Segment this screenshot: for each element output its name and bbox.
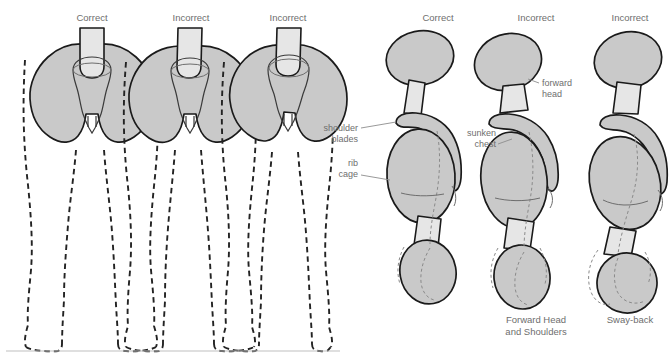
sacrum-column (177, 28, 202, 78)
leader-shoulder-blades (361, 122, 396, 128)
caption-sway-back: Sway-back (607, 314, 654, 325)
neck-column (500, 84, 528, 113)
caption-front-incorrect-2: Incorrect (270, 12, 307, 23)
neck-column (613, 82, 641, 114)
annotation-sunken-chest-line1: sunken (467, 128, 496, 138)
sacrum-column (276, 28, 301, 76)
leader-rib-cage (361, 175, 390, 180)
annotation-shoulder-blades-line1: shoulder (323, 123, 358, 133)
left-panel: Correct Incorrect Incorrect (6, 12, 347, 351)
pubic-symphysis (88, 116, 96, 127)
sacrum-column (80, 28, 104, 78)
caption-front-correct: Correct (76, 12, 108, 23)
side-figure-correct: shoulder blades rib cage (323, 25, 461, 309)
annotation-sunken-chest-line2: chest (474, 139, 496, 149)
leg-outline-inner-right (298, 152, 312, 344)
annotation-rib-cage-line1: rib (348, 158, 358, 168)
side-figure-forward-head: forward head sunken chest Forward Head a… (467, 25, 572, 337)
posture-diagram: Correct Incorrect Incorrect (0, 0, 672, 355)
annotation-shoulder-blades-line2: blades (331, 134, 358, 144)
caption-forward-head-line1: Forward Head (506, 314, 566, 325)
pubic-symphysis (284, 114, 292, 126)
right-panel: Correct Incorrect Incorrect shoulder (323, 12, 670, 337)
caption-side-incorrect-2: Incorrect (612, 12, 649, 23)
front-figure-incorrect-2 (222, 28, 347, 351)
caption-side-incorrect-1: Incorrect (518, 12, 555, 23)
side-figure-sway-back: Sway-back (580, 25, 671, 325)
leg-outline-inner-left (259, 152, 272, 344)
leg-outline-inner-left (62, 150, 76, 344)
leg-outline-inner-left (163, 150, 175, 344)
foot-right (312, 344, 331, 351)
annotation-forward-head-line1: forward (542, 78, 572, 88)
caption-forward-head-line2: and Shoulders (505, 326, 567, 337)
diagram-canvas: Correct Incorrect Incorrect (0, 0, 672, 355)
leg-outline-inner-right (104, 150, 118, 344)
neck-column (404, 80, 425, 116)
leg-outline-inner-right (201, 150, 214, 344)
caption-front-incorrect-1: Incorrect (173, 12, 210, 23)
pelvis-oval (593, 249, 661, 317)
pubic-symphysis (186, 116, 194, 127)
caption-side-correct: Correct (422, 12, 454, 23)
annotation-rib-cage-line2: cage (338, 169, 358, 179)
annotation-forward-head-line2: head (542, 89, 562, 99)
foot-left (26, 344, 62, 351)
